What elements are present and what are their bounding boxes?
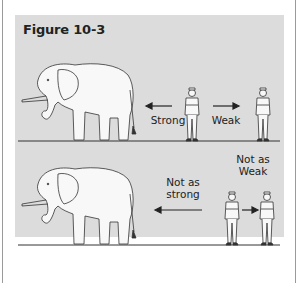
elephant-icon xyxy=(22,64,136,140)
arrow-right-icon xyxy=(213,103,239,109)
label-not-as-strong-line2: strong xyxy=(158,188,208,200)
label-weak: Weak xyxy=(211,114,241,126)
elephant-icon xyxy=(22,168,136,244)
arrow-right-icon xyxy=(242,207,258,213)
arrow-left-icon xyxy=(155,207,202,213)
figure-illustration xyxy=(0,0,299,283)
label-not-as-weak-line2: Weak xyxy=(228,165,278,177)
person-icon xyxy=(256,88,270,141)
label-not-as-weak-line1: Not as xyxy=(228,153,278,165)
person-icon xyxy=(225,192,239,245)
label-strong: Strong xyxy=(148,114,188,126)
arrow-left-icon xyxy=(146,103,172,109)
label-not-as-strong-line1: Not as xyxy=(158,176,208,188)
person-icon xyxy=(260,192,274,245)
